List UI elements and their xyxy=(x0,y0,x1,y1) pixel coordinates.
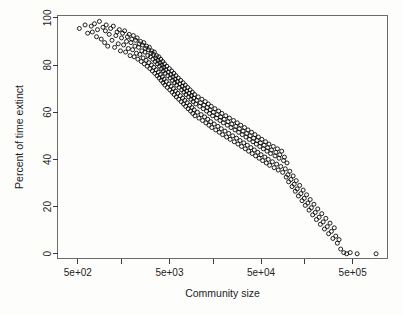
data-point xyxy=(110,38,114,42)
data-point xyxy=(307,208,311,212)
data-point xyxy=(280,149,284,153)
x-tick-label: 5e+04 xyxy=(247,267,276,278)
axes-group xyxy=(53,16,388,264)
data-point xyxy=(268,163,272,167)
data-point xyxy=(267,142,271,146)
y-tick-label: 100 xyxy=(42,9,53,26)
data-point xyxy=(95,35,99,39)
data-point xyxy=(83,23,87,27)
data-point xyxy=(149,63,153,67)
data-point xyxy=(124,50,128,54)
x-tick-label: 5e+02 xyxy=(64,267,93,278)
data-point xyxy=(104,23,108,27)
data-point xyxy=(324,216,328,220)
data-point xyxy=(103,29,107,33)
data-point xyxy=(152,65,156,69)
y-axis-title: Percent of time extinct xyxy=(13,85,25,189)
data-point xyxy=(270,160,274,164)
data-point xyxy=(224,114,228,118)
data-point xyxy=(188,103,192,107)
data-point xyxy=(219,127,223,131)
data-point xyxy=(298,183,302,187)
data-point xyxy=(321,220,325,224)
data-point xyxy=(106,44,110,48)
data-points-group xyxy=(77,19,378,255)
data-point xyxy=(185,101,189,105)
data-point xyxy=(227,131,231,135)
x-tick-label: 5e+05 xyxy=(339,267,368,278)
data-point xyxy=(301,188,305,192)
y-tick-label: 60 xyxy=(42,106,53,118)
data-point xyxy=(103,41,107,45)
data-point xyxy=(291,174,295,178)
data-point xyxy=(231,118,235,122)
data-point xyxy=(118,49,122,53)
data-point xyxy=(311,213,315,217)
data-point xyxy=(212,122,216,126)
data-point xyxy=(296,194,300,198)
data-point xyxy=(334,234,338,238)
y-tick-label: 20 xyxy=(42,201,53,213)
data-point xyxy=(294,179,298,183)
data-point xyxy=(178,94,182,98)
data-point xyxy=(131,34,135,38)
data-point xyxy=(117,28,121,32)
data-point xyxy=(115,30,119,34)
data-point xyxy=(223,129,227,133)
data-point xyxy=(126,47,130,51)
data-point xyxy=(266,157,270,161)
data-point xyxy=(238,139,242,143)
data-point xyxy=(309,206,313,210)
data-point xyxy=(312,202,316,206)
data-point xyxy=(355,252,359,256)
data-point xyxy=(285,161,289,165)
data-point xyxy=(239,123,243,127)
data-point xyxy=(275,162,279,166)
data-point xyxy=(116,42,120,46)
data-point xyxy=(325,225,329,229)
data-point xyxy=(113,45,117,49)
data-point xyxy=(97,19,101,23)
data-point xyxy=(260,137,264,141)
data-point xyxy=(281,170,285,174)
data-point xyxy=(120,36,124,40)
data-point xyxy=(303,203,307,207)
scatter-plot: 5e+025e+035e+045e+05020406080100Communit… xyxy=(0,0,403,315)
data-point xyxy=(316,207,320,211)
y-tick-label: 0 xyxy=(42,251,53,257)
data-point xyxy=(86,31,90,35)
data-point xyxy=(195,110,199,114)
y-tick-label: 40 xyxy=(42,153,53,165)
data-point xyxy=(111,24,115,28)
x-axis-title: Community size xyxy=(185,287,260,299)
data-point xyxy=(283,167,287,171)
figure-container: 5e+025e+035e+045e+05020406080100Communit… xyxy=(0,0,403,315)
data-point xyxy=(317,215,321,219)
data-point xyxy=(287,180,291,184)
data-point xyxy=(125,39,129,43)
data-point xyxy=(339,247,343,251)
data-point xyxy=(147,61,151,65)
data-point xyxy=(107,32,111,36)
data-point xyxy=(196,95,200,99)
data-point xyxy=(128,54,132,58)
data-point xyxy=(305,193,309,197)
y-tick-label: 80 xyxy=(42,59,53,71)
data-point xyxy=(275,147,279,151)
data-point xyxy=(231,134,235,138)
data-point xyxy=(122,43,126,47)
data-point xyxy=(220,111,224,115)
data-point xyxy=(374,252,378,256)
data-point xyxy=(167,82,171,86)
data-point xyxy=(227,116,231,120)
data-point xyxy=(96,28,100,32)
x-tick-label: 5e+03 xyxy=(155,267,184,278)
data-point xyxy=(259,153,263,157)
data-point xyxy=(329,229,333,233)
data-point xyxy=(99,37,103,41)
data-point xyxy=(320,212,324,216)
axis-labels-group: 5e+025e+035e+045e+05020406080100Communit… xyxy=(13,9,368,299)
data-point xyxy=(90,30,94,34)
data-point xyxy=(332,226,336,230)
data-point xyxy=(328,221,332,225)
